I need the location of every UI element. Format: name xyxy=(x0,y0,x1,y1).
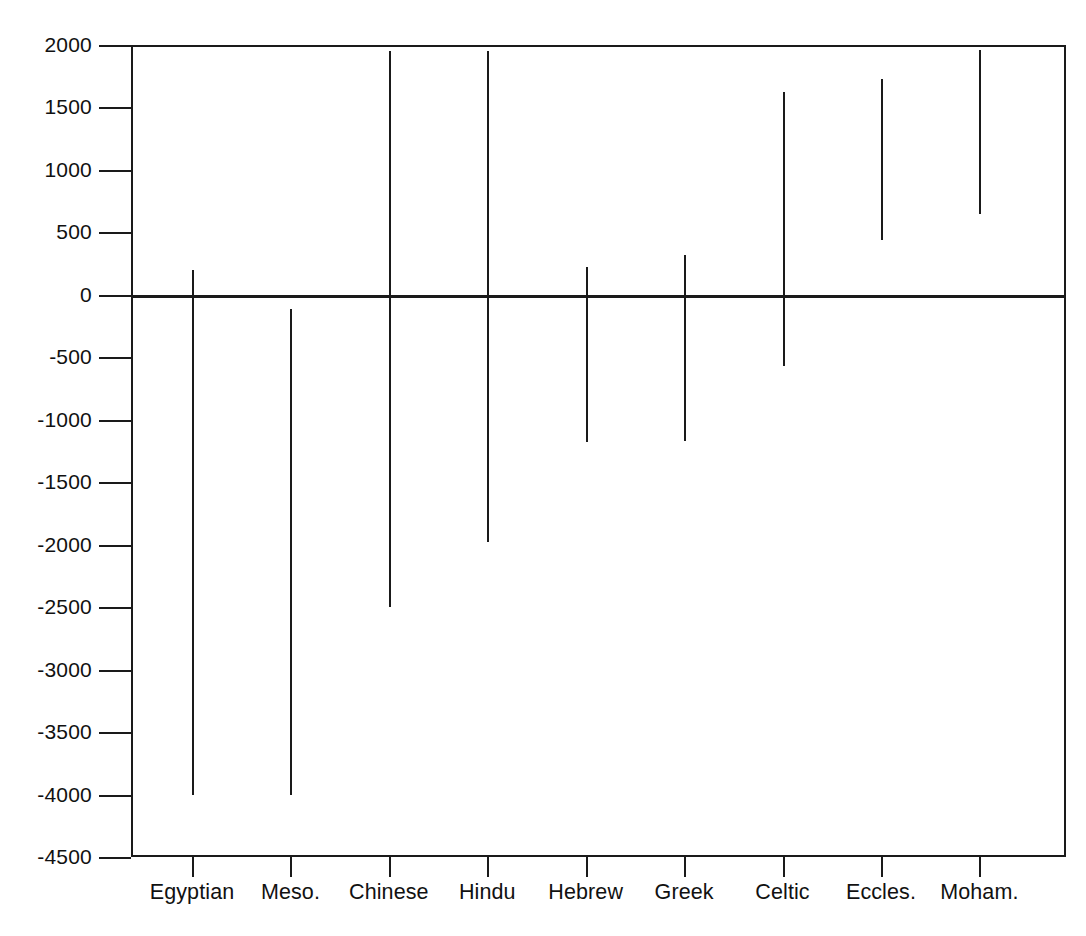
y-axis-tick-label: -500 xyxy=(0,345,92,369)
x-axis-tick xyxy=(586,857,588,877)
x-axis-tick xyxy=(389,857,391,877)
x-axis-tick xyxy=(192,857,194,877)
y-axis-tick xyxy=(99,545,131,547)
range-bar xyxy=(586,267,588,442)
range-bar xyxy=(979,50,981,214)
y-axis-tick-label: 500 xyxy=(0,220,92,244)
range-bar xyxy=(389,51,391,607)
y-axis-tick-label: 0 xyxy=(0,283,92,307)
range-bar xyxy=(881,79,883,240)
range-bar xyxy=(783,92,785,366)
y-axis-tick-label: -1500 xyxy=(0,470,92,494)
y-axis-tick xyxy=(99,482,131,484)
x-axis-tick xyxy=(290,857,292,877)
y-axis-tick-label: -1000 xyxy=(0,408,92,432)
zero-baseline-line xyxy=(131,295,1066,298)
y-axis-tick xyxy=(99,170,131,172)
y-axis-tick xyxy=(99,732,131,734)
y-axis-tick-label: 2000 xyxy=(0,33,92,57)
plot-area xyxy=(131,45,1066,857)
y-axis-tick-label: 1000 xyxy=(0,158,92,182)
range-bar xyxy=(684,255,686,441)
y-axis-tick-label: -3500 xyxy=(0,720,92,744)
y-axis-tick xyxy=(99,45,131,47)
x-axis-tick xyxy=(979,857,981,877)
y-axis-tick xyxy=(99,420,131,422)
y-axis-tick xyxy=(99,107,131,109)
y-axis-tick-label: 1500 xyxy=(0,95,92,119)
y-axis-tick xyxy=(99,232,131,234)
range-bar xyxy=(290,309,292,795)
y-axis-tick-label: -4000 xyxy=(0,783,92,807)
y-axis-tick xyxy=(99,357,131,359)
y-axis-tick-label: -2000 xyxy=(0,533,92,557)
x-axis-tick xyxy=(783,857,785,877)
y-axis-tick xyxy=(99,607,131,609)
y-axis-tick xyxy=(99,295,131,297)
chart-root: 2000150010005000-500-1000-1500-2000-2500… xyxy=(0,0,1086,936)
y-axis-tick xyxy=(99,795,131,797)
range-bar xyxy=(192,270,194,795)
x-axis-tick xyxy=(487,857,489,877)
y-axis-tick-label: -3000 xyxy=(0,658,92,682)
y-axis-tick-label: -4500 xyxy=(0,845,92,869)
y-axis-tick xyxy=(99,670,131,672)
x-axis-tick xyxy=(881,857,883,877)
y-axis-tick xyxy=(99,857,131,859)
y-axis-tick-label: -2500 xyxy=(0,595,92,619)
x-axis-tick xyxy=(684,857,686,877)
